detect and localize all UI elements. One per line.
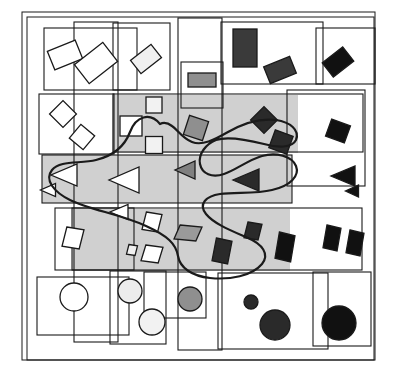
circle-5: [244, 295, 258, 309]
rect-12: [146, 137, 163, 154]
circle-7: [322, 306, 356, 340]
para-10: [346, 230, 364, 256]
para-9: [323, 225, 341, 251]
shape-grid-diagram: [0, 0, 396, 374]
circle-6: [260, 310, 290, 340]
circle-2: [118, 279, 142, 303]
rect-11: [146, 97, 162, 113]
rect-5: [233, 29, 257, 67]
rect-4: [188, 73, 216, 87]
circle-3: [139, 309, 165, 335]
para-6: [212, 238, 232, 264]
para-8: [275, 232, 295, 262]
figure-canvas: [0, 0, 396, 374]
circle-4: [178, 287, 202, 311]
para-3: [127, 245, 138, 256]
circle-1: [60, 283, 88, 311]
